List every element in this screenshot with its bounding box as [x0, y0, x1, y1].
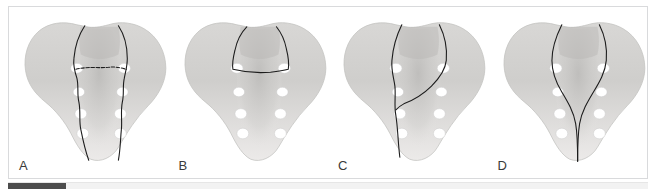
panel-label-c: C — [338, 159, 348, 172]
sacrum-panel-a[interactable]: A — [9, 7, 169, 178]
sacrum-bone-shape-c — [344, 23, 485, 161]
sacrum-bone-shape-a — [25, 23, 166, 161]
figure-frame: A — [8, 6, 648, 179]
progress-bar-track[interactable] — [8, 182, 648, 189]
sacrum-panel-d[interactable]: D — [488, 7, 648, 178]
sacrum-panel-c[interactable]: C — [328, 7, 488, 178]
sacrum-panel-b[interactable]: B — [169, 7, 329, 178]
progress-bar-fill — [8, 183, 66, 189]
sacrum-panel-row: A — [9, 7, 647, 178]
sacrum-bone-shape-b — [185, 23, 326, 161]
panel-label-b: B — [179, 159, 188, 172]
sacrum-illustration-c — [328, 7, 488, 178]
sacrum-illustration-d — [488, 7, 648, 178]
panel-label-a: A — [19, 159, 28, 172]
sacrum-illustration-b — [169, 7, 329, 178]
panel-label-d: D — [498, 159, 508, 172]
sacrum-bone-shape-d — [504, 23, 645, 161]
sacrum-illustration-a — [9, 7, 169, 178]
